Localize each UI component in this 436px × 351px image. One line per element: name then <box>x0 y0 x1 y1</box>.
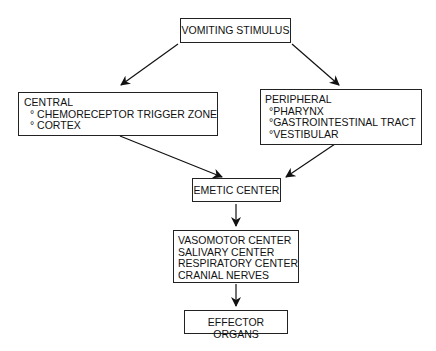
peripheral-item: °VESTIBULAR <box>265 129 421 141</box>
central-item: ° CORTEX <box>24 120 217 132</box>
emetic-center-node: EMETIC CENTER <box>192 178 281 202</box>
peripheral-node: PERIPHERAL °PHARYNX °GASTROINTESTINAL TR… <box>260 89 422 145</box>
peripheral-title: PERIPHERAL <box>265 94 421 106</box>
arrow-stimulus-to-peripheral <box>292 44 339 85</box>
arrow-peripheral-to-emetic <box>286 144 335 177</box>
peripheral-item: °GASTROINTESTINAL TRACT <box>265 117 421 129</box>
central-node: CENTRAL ° CHEMORECEPTOR TRIGGER ZONE ° C… <box>18 92 218 136</box>
centers-item: VASOMOTOR CENTER <box>178 235 298 247</box>
arrow-stimulus-to-central <box>121 44 178 85</box>
vomiting-stimulus-node: VOMITING STIMULUS <box>180 18 291 43</box>
vomiting-stimulus-label: VOMITING STIMULUS <box>182 24 290 36</box>
central-title: CENTRAL <box>24 97 217 109</box>
arrow-central-to-emetic <box>120 136 222 177</box>
centers-node: VASOMOTOR CENTER SALIVARY CENTER RESPIRA… <box>173 230 299 283</box>
emetic-center-label: EMETIC CENTER <box>194 184 280 196</box>
centers-item: RESPIRATORY CENTER <box>178 258 298 270</box>
effector-organs-label: EFFECTOR ORGANS <box>208 316 264 340</box>
centers-item: CRANIAL NERVES <box>178 270 298 282</box>
effector-organs-node: EFFECTOR ORGANS <box>184 310 288 334</box>
arrows-layer <box>0 0 436 351</box>
